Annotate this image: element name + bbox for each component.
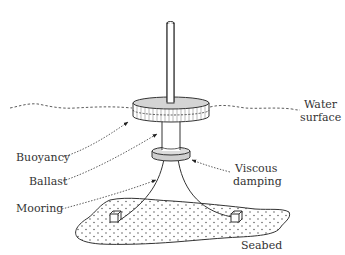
buoyancy-arrow: [63, 122, 128, 157]
ballast-column: [162, 118, 180, 151]
label-mooring: Mooring: [16, 202, 63, 215]
label-water-surface-1: Water: [304, 98, 338, 111]
pointer-arrows: [62, 122, 230, 209]
label-ballast: Ballast: [29, 175, 68, 188]
label-viscous-damping-1: Viscous: [234, 162, 278, 175]
label-seabed: Seabed: [241, 239, 282, 252]
viscous-damping-arrow: [192, 160, 230, 172]
label-water-surface-2: surface: [300, 111, 341, 124]
spar-buoy-diagram: Water surface Buoyancy Ballast Mooring V…: [0, 0, 345, 255]
mast: [167, 22, 174, 104]
label-viscous-damping-2: damping: [233, 175, 282, 188]
ballast-arrow: [63, 134, 157, 181]
label-buoyancy: Buoyancy: [16, 151, 71, 164]
seabed: [76, 198, 290, 244]
